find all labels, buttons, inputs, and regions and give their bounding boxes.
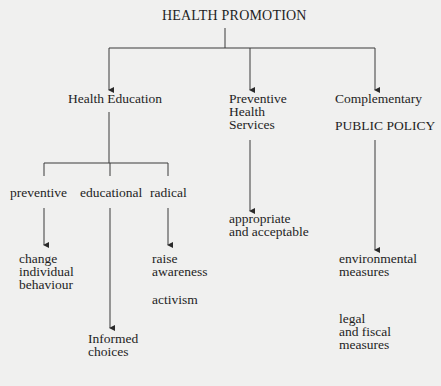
node-preventive: preventive: [10, 186, 67, 199]
outcome-line: choices: [88, 345, 138, 358]
outcome-line: measures: [339, 265, 417, 278]
outcome-informed-choices: Informed choices: [88, 332, 138, 358]
outcome-line: behaviour: [19, 278, 74, 291]
node-complementary: Complementary: [335, 92, 422, 105]
outcome-line: awareness: [152, 265, 207, 278]
outcome-environmental-measures: environmental measures: [339, 252, 417, 278]
outcome-raise-awareness: raise awareness: [152, 252, 207, 278]
node-educational: educational: [80, 186, 142, 199]
outcome-line: measures: [339, 338, 391, 351]
label-line: Services: [229, 118, 287, 131]
node-radical: radical: [150, 186, 187, 199]
outcome-change-behaviour: change individual behaviour: [19, 252, 74, 291]
outcome-appropriate-acceptable: appropriate and acceptable: [229, 212, 309, 238]
node-health-education: Health Education: [68, 92, 162, 105]
outcome-legal-fiscal-measures: legal and fiscal measures: [339, 312, 391, 351]
diagram-title: HEALTH PROMOTION: [162, 9, 307, 22]
node-public-policy: PUBLIC POLICY: [335, 119, 435, 132]
node-preventive-health-services: Preventive Health Services: [229, 92, 287, 131]
outcome-activism: activism: [152, 293, 198, 306]
outcome-line: and acceptable: [229, 225, 309, 238]
